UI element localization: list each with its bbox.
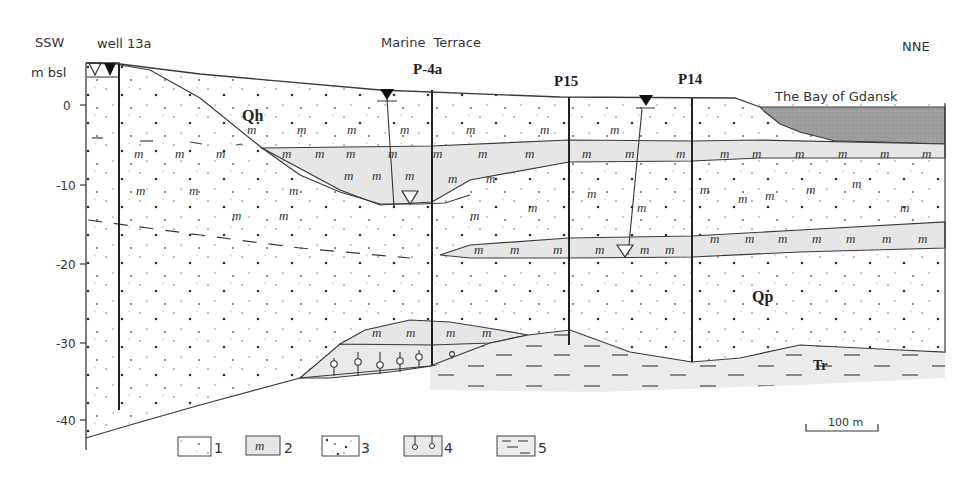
svg-text:m: m — [406, 325, 415, 340]
svg-text:1: 1 — [214, 440, 223, 456]
svg-text:m: m — [388, 146, 397, 161]
svg-text:4: 4 — [444, 440, 453, 456]
legend-item-4: 4 — [404, 436, 453, 456]
svg-text:m: m — [232, 208, 241, 223]
svg-text:m: m — [665, 242, 674, 257]
legend-item-2: m 2 — [246, 436, 293, 456]
svg-text:m: m — [297, 122, 306, 137]
legend: 1 m 2 3 4 5 — [178, 436, 547, 456]
well-label-p15: P15 — [554, 73, 578, 89]
svg-text:m: m — [852, 176, 861, 191]
svg-text:m: m — [474, 242, 483, 257]
svg-text:m: m — [882, 231, 891, 246]
svg-text:m: m — [470, 208, 479, 223]
scale-bar: 100 m — [806, 416, 878, 431]
legend-item-1: 1 — [178, 437, 223, 456]
scale-bar-label: 100 m — [828, 416, 863, 429]
svg-text:m: m — [175, 146, 184, 161]
svg-text:m: m — [595, 242, 604, 257]
svg-text:m: m — [752, 146, 761, 161]
y-tick-0: 0 — [63, 99, 71, 113]
svg-text:m: m — [482, 325, 491, 340]
svg-text:m: m — [372, 168, 381, 183]
y-tick-20: -20 — [56, 258, 76, 272]
legend-item-3: 3 — [322, 436, 370, 456]
unit-label-qh: Qh — [242, 107, 263, 124]
svg-text:5: 5 — [538, 440, 547, 456]
svg-text:m: m — [510, 242, 519, 257]
y-tick-40: -40 — [56, 414, 76, 428]
geological-cross-section: SSW NNE m bsl Marine Terrace The Bay of … — [0, 0, 976, 479]
svg-text:m: m — [640, 242, 649, 257]
svg-text:m: m — [637, 200, 646, 215]
svg-text:m: m — [700, 182, 709, 197]
legend-item-5: 5 — [497, 436, 547, 456]
svg-text:m: m — [136, 183, 145, 198]
direction-right-label: NNE — [902, 39, 930, 54]
svg-text:m: m — [765, 188, 774, 203]
svg-text:m: m — [528, 200, 537, 215]
svg-text:m: m — [282, 146, 291, 161]
svg-text:m: m — [922, 146, 931, 161]
svg-text:m: m — [778, 231, 787, 246]
svg-text:m: m — [189, 183, 198, 198]
svg-text:m: m — [625, 146, 634, 161]
svg-text:m: m — [900, 200, 909, 215]
svg-text:m: m — [315, 146, 324, 161]
svg-text:m: m — [880, 146, 889, 161]
svg-text:m: m — [216, 146, 225, 161]
svg-text:m: m — [806, 182, 815, 197]
svg-text:m: m — [466, 122, 475, 137]
svg-text:m: m — [812, 231, 821, 246]
svg-text:m: m — [478, 146, 487, 161]
svg-text:m: m — [918, 231, 927, 246]
svg-text:m: m — [405, 168, 414, 183]
svg-text:m: m — [846, 231, 855, 246]
y-tick-30: -30 — [56, 337, 76, 351]
svg-text:m: m — [525, 146, 534, 161]
sea-label: The Bay of Gdansk — [774, 89, 898, 104]
svg-text:m: m — [446, 325, 455, 340]
svg-text:m: m — [587, 186, 596, 201]
m-symbol: m — [247, 122, 256, 137]
svg-text:2: 2 — [284, 440, 293, 456]
svg-text:m: m — [433, 146, 442, 161]
svg-text:m: m — [710, 231, 719, 246]
svg-text:m: m — [720, 146, 729, 161]
svg-text:m: m — [372, 325, 381, 340]
svg-text:m: m — [347, 122, 356, 137]
svg-text:m: m — [676, 146, 685, 161]
direction-left-label: SSW — [35, 35, 65, 50]
svg-text:m: m — [553, 242, 562, 257]
svg-text:m: m — [610, 122, 619, 137]
svg-text:m: m — [279, 208, 288, 223]
svg-text:3: 3 — [361, 440, 370, 456]
svg-text:m: m — [582, 146, 591, 161]
svg-text:m: m — [255, 438, 264, 453]
y-axis-unit-label: m bsl — [31, 65, 66, 80]
svg-text:m: m — [745, 231, 754, 246]
svg-text:m: m — [795, 146, 804, 161]
well-label-13a: well 13a — [97, 36, 152, 51]
y-tick-10: -10 — [56, 179, 76, 193]
svg-text:m: m — [540, 122, 549, 137]
svg-text:m: m — [346, 146, 355, 161]
unit-label-qp: Qp — [752, 288, 773, 306]
svg-text:m: m — [486, 171, 495, 186]
well-label-p4a: P-4a — [413, 61, 443, 77]
region-label: Marine Terrace — [381, 35, 481, 50]
svg-text:m: m — [838, 146, 847, 161]
svg-text:m: m — [134, 146, 143, 161]
unit-label-tr: Tr — [813, 358, 828, 373]
svg-text:m: m — [400, 122, 409, 137]
svg-text:m: m — [448, 171, 457, 186]
svg-text:m: m — [738, 191, 747, 206]
svg-text:m: m — [289, 183, 298, 198]
svg-text:m: m — [344, 168, 353, 183]
well-label-p14: P14 — [678, 71, 703, 87]
